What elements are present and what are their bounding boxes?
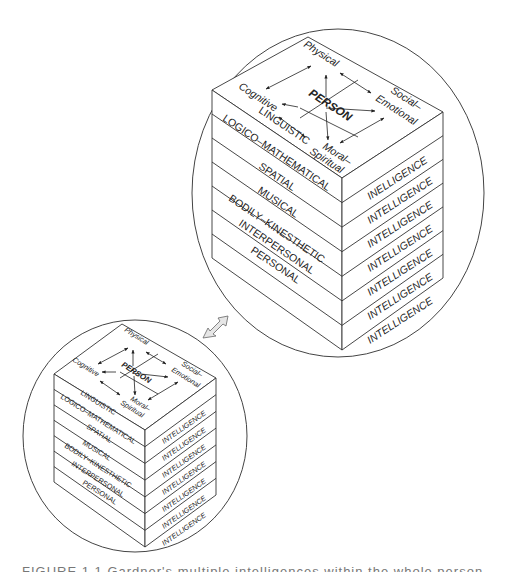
figure-canvas: LINGUISTIC LOGICO–MATHEMATICAL SPATIAL M… (0, 0, 505, 572)
figure-caption: FIGURE 1.1 Gardner's multiple intelligen… (22, 562, 492, 572)
double-arrow-icon (203, 316, 228, 338)
small-cube: LINGUISTIC LOGICO–MATHEMATICAL SPATIAL M… (54, 324, 216, 548)
large-cube: LINGUISTIC LOGICO–MATHEMATICAL SPATIAL M… (212, 37, 443, 350)
